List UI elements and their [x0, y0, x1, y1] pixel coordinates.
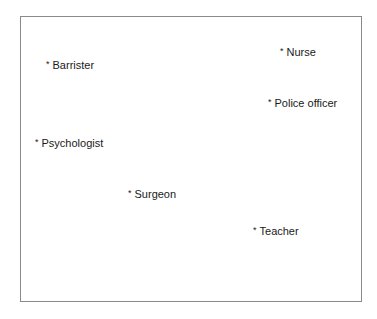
asterisk-marker-icon: * — [35, 137, 39, 147]
asterisk-marker-icon: * — [268, 97, 272, 107]
label-nurse: *Nurse — [280, 46, 316, 59]
label-teacher: *Teacher — [253, 225, 299, 238]
asterisk-marker-icon: * — [46, 59, 50, 69]
label-text: Surgeon — [135, 188, 177, 200]
label-barrister: *Barrister — [46, 59, 94, 72]
asterisk-marker-icon: * — [128, 188, 132, 198]
asterisk-marker-icon: * — [280, 46, 284, 56]
label-text: Barrister — [53, 59, 95, 71]
asterisk-marker-icon: * — [253, 225, 257, 235]
label-police-officer: *Police officer — [268, 97, 337, 110]
label-text: Teacher — [260, 225, 299, 237]
label-psychologist: *Psychologist — [35, 137, 103, 150]
label-text: Psychologist — [42, 137, 104, 149]
label-surgeon: *Surgeon — [128, 188, 176, 201]
label-text: Nurse — [287, 46, 316, 58]
label-text: Police officer — [275, 97, 338, 109]
